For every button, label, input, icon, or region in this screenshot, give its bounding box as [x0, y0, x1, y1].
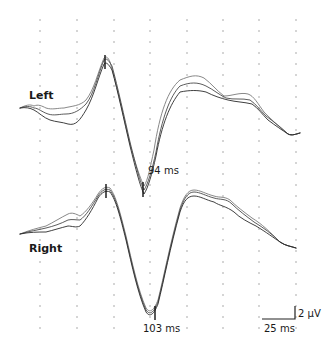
grid-dot	[113, 140, 114, 141]
grid-dot	[76, 85, 77, 86]
grid-dot	[295, 261, 296, 262]
grid-dot	[186, 327, 187, 328]
grid-dot	[76, 173, 77, 174]
grid-dot	[258, 118, 259, 119]
erp-waveform-chart: Left Right 94 ms 103 ms 2 µV 25 ms	[0, 0, 334, 348]
grid-dot	[295, 184, 296, 185]
grid-dot	[39, 162, 40, 163]
grid-dot	[222, 294, 223, 295]
grid-dot	[149, 195, 150, 196]
grid-dot	[149, 294, 150, 295]
grid-dot	[113, 85, 114, 86]
grid-dot	[186, 19, 187, 20]
grid-dot	[258, 129, 259, 130]
grid-dot	[113, 228, 114, 229]
grid-dot	[149, 305, 150, 306]
grid-dot	[222, 173, 223, 174]
grid-dot	[186, 305, 187, 306]
grid-dot	[295, 217, 296, 218]
grid-dot	[258, 52, 259, 53]
grid-dot	[149, 74, 150, 75]
grid-dot	[113, 272, 114, 273]
grid-dot	[186, 239, 187, 240]
left-label: Left	[29, 89, 54, 102]
grid-dot	[113, 327, 114, 328]
grid-dot	[113, 305, 114, 306]
grid-dot	[258, 41, 259, 42]
grid-dot	[222, 162, 223, 163]
grid-dot	[149, 107, 150, 108]
grid-dot	[186, 250, 187, 251]
grid-dot	[222, 19, 223, 20]
grid-dot	[295, 294, 296, 295]
grid-dot	[39, 173, 40, 174]
grid-dot	[149, 250, 150, 251]
grid-dot	[258, 272, 259, 273]
grid-dot	[39, 118, 40, 119]
grid-dot	[39, 305, 40, 306]
grid-dot	[222, 250, 223, 251]
grid-dot	[149, 206, 150, 207]
grid-dot	[113, 283, 114, 284]
grid-dot	[258, 239, 259, 240]
grid-dot	[113, 118, 114, 119]
right-label: Right	[29, 242, 62, 255]
grid-dot	[222, 118, 223, 119]
grid-dot	[39, 184, 40, 185]
grid-dot	[113, 52, 114, 53]
grid-dot	[149, 283, 150, 284]
grid-dot	[295, 206, 296, 207]
grid-dot	[76, 96, 77, 97]
grid-dot	[258, 327, 259, 328]
grid-dot	[76, 217, 77, 218]
grid-dot	[186, 272, 187, 273]
grid-dot	[76, 261, 77, 262]
grid-dot	[222, 228, 223, 229]
grid-dot	[149, 30, 150, 31]
grid-dot	[222, 195, 223, 196]
grid-dot	[222, 261, 223, 262]
grid-dot	[39, 272, 40, 273]
grid-dot	[258, 195, 259, 196]
grid-dot	[149, 261, 150, 262]
grid-dot	[113, 63, 114, 64]
grid-dot	[39, 283, 40, 284]
grid-dot	[222, 30, 223, 31]
grid-dot	[222, 52, 223, 53]
grid-dot	[149, 316, 150, 317]
grid-dot	[295, 74, 296, 75]
scale-amplitude-label: 2 µV	[298, 308, 321, 319]
grid-dot	[149, 184, 150, 185]
grid-dot	[295, 250, 296, 251]
grid-dot	[258, 85, 259, 86]
grid-dot	[76, 305, 77, 306]
grid-dot	[186, 140, 187, 141]
grid-dot	[76, 140, 77, 141]
grid-dot	[76, 118, 77, 119]
grid-dot	[39, 206, 40, 207]
grid-dot	[149, 63, 150, 64]
grid-dot	[113, 239, 114, 240]
grid-dot	[295, 195, 296, 196]
grid-dot	[76, 63, 77, 64]
grid-dot	[222, 327, 223, 328]
grid-dot	[258, 250, 259, 251]
grid-dot	[149, 239, 150, 240]
grid-dot	[186, 118, 187, 119]
grid-dot	[113, 206, 114, 207]
grid-dot	[39, 239, 40, 240]
grid-dot	[222, 129, 223, 130]
grid-dot	[186, 261, 187, 262]
grid-dot	[258, 140, 259, 141]
grid-dot	[39, 41, 40, 42]
grid-dot	[39, 129, 40, 130]
grid-dot	[76, 74, 77, 75]
grid-dot	[186, 41, 187, 42]
grid-dot	[113, 184, 114, 185]
scale-bar-lines	[262, 306, 295, 319]
grid-dot	[149, 129, 150, 130]
grid-dot	[222, 151, 223, 152]
grid-dot	[186, 129, 187, 130]
grid-dot	[222, 140, 223, 141]
grid-dot	[186, 228, 187, 229]
